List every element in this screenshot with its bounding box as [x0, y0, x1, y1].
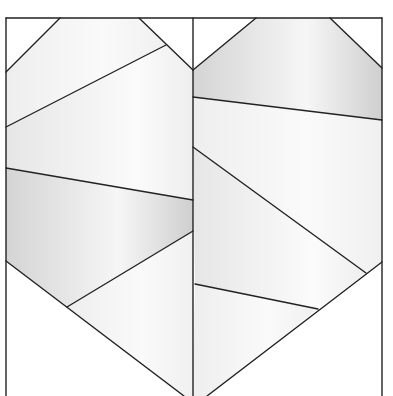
- shaded-regions: [6, 18, 382, 396]
- geometric-pattern-diagram: [0, 0, 393, 396]
